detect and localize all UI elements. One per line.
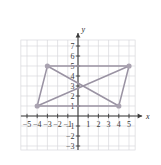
x-tick-label: −4 [33,120,42,129]
y-tick-label: −3 [66,142,75,151]
x-tick-label: 1 [86,120,90,129]
x-tick-label: −5 [23,120,32,129]
x-tick-label: 3 [107,120,111,129]
x-tick-label: 5 [127,120,131,129]
vertex-point [45,63,50,68]
vertex-point [126,63,131,68]
y-tick-label: 7 [71,42,75,51]
y-tick-label: −2 [66,132,75,141]
figure-background [0,0,161,165]
x-axis-label: x [145,112,150,121]
y-tick-label: 6 [71,52,75,61]
coordinate-plane-figure: −5−4−3−2−1123457654321−1−2−3 x y [0,0,161,165]
x-tick-label: −3 [43,120,52,129]
y-tick-label: 2 [71,92,75,101]
coordinate-plane-svg: −5−4−3−2−1123457654321−1−2−3 x y [0,0,161,165]
y-axis-label: y [81,25,86,34]
vertex-point [35,103,40,108]
x-tick-label: 2 [96,120,100,129]
x-tick-label: 4 [117,120,121,129]
y-tick-label: −1 [66,122,75,131]
x-tick-label: −2 [53,120,62,129]
vertex-point [116,103,121,108]
